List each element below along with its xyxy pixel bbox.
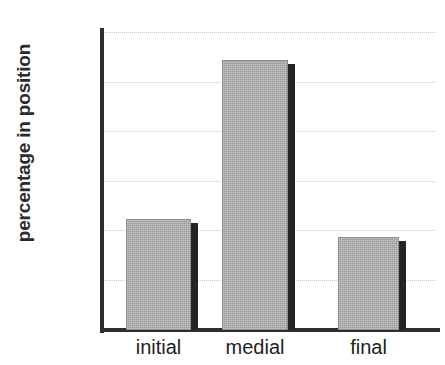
bar-final[interactable] <box>338 237 399 330</box>
y-axis-title: percentage in position <box>13 43 35 243</box>
plot-area <box>103 33 440 330</box>
bar-medial[interactable] <box>222 60 288 330</box>
bar-fill-medial <box>222 60 288 330</box>
bar-shadow-initial <box>191 223 198 330</box>
bar-chart: percentage in position 0102030405060 ini… <box>0 0 445 365</box>
bar-shadow-final <box>399 241 406 330</box>
bar-shadow-medial <box>288 64 295 330</box>
x-label-initial: initial <box>106 336 211 359</box>
gridline-60 <box>105 32 435 33</box>
bar-fill-final <box>338 237 399 330</box>
bar-initial[interactable] <box>126 219 191 330</box>
x-label-medial: medial <box>202 336 308 359</box>
x-label-final: final <box>318 336 419 359</box>
bar-fill-initial <box>126 219 191 330</box>
